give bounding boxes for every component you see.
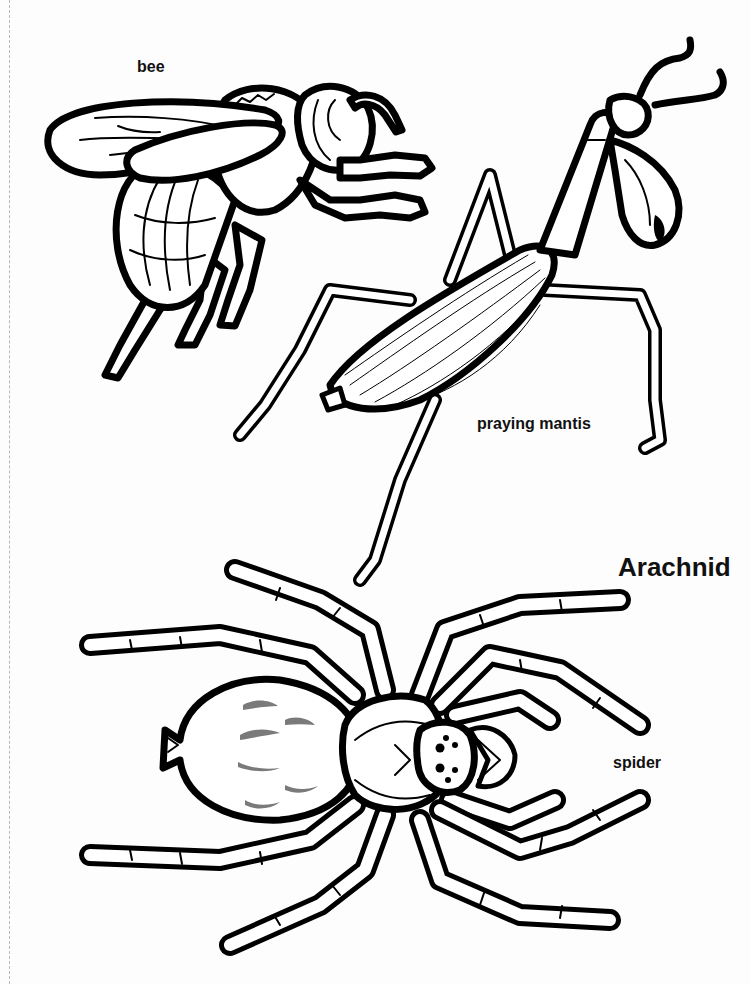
bee-leg: [340, 155, 432, 178]
mantis-antenna: [655, 72, 723, 105]
mantis-antenna: [640, 40, 691, 95]
spider-label: spider: [613, 754, 661, 772]
mantis-thorax: [540, 113, 615, 255]
mantis-head: [609, 96, 649, 135]
praying-mantis-label: praying mantis: [477, 415, 591, 433]
bee-illustration: [48, 86, 432, 378]
bee-label: bee: [137, 58, 165, 76]
spider-abdomen: [163, 679, 360, 820]
spider-head: [417, 722, 475, 792]
spider-illustration: [90, 570, 640, 945]
arachnid-section-heading: Arachnid: [618, 552, 731, 583]
illustrations: [0, 0, 751, 984]
bee-leg: [300, 180, 425, 218]
